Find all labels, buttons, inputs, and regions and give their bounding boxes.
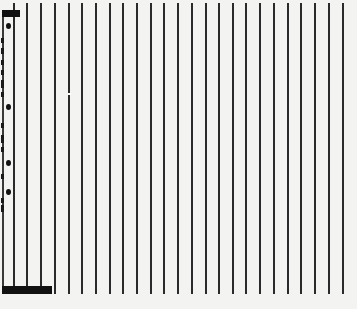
- vertical-line: [328, 3, 330, 294]
- vertical-line: [273, 3, 275, 294]
- vertical-line: [245, 3, 247, 294]
- vertical-line: [54, 3, 56, 294]
- dash-marker: [1, 123, 4, 128]
- vertical-line: [150, 3, 152, 294]
- dash-marker: [1, 80, 4, 88]
- dot-marker: [6, 104, 11, 110]
- vertical-line: [342, 3, 344, 294]
- white-speck: [68, 93, 71, 95]
- vertical-line: [191, 3, 193, 294]
- vertical-line: [26, 3, 28, 294]
- dash-marker: [1, 70, 4, 75]
- dash-marker: [1, 205, 4, 212]
- vertical-line: [218, 3, 220, 294]
- vertical-line: [136, 3, 138, 294]
- vertical-line: [259, 3, 261, 294]
- dot-marker: [6, 160, 11, 166]
- dash-marker: [1, 48, 4, 54]
- vertical-line: [109, 3, 111, 294]
- top-left-bar: [2, 10, 20, 17]
- dash-marker: [1, 92, 4, 97]
- vertical-line: [81, 3, 83, 294]
- dash-marker: [1, 60, 4, 65]
- vertical-line: [163, 3, 165, 294]
- vertical-line: [287, 3, 289, 294]
- vertical-line: [40, 3, 42, 294]
- vertical-line: [314, 3, 316, 294]
- dash-marker: [1, 135, 4, 143]
- vertical-line: [205, 3, 207, 294]
- dot-marker: [6, 189, 11, 195]
- striped-pattern-canvas: [0, 0, 357, 309]
- vertical-line: [232, 3, 234, 294]
- vertical-line: [13, 3, 15, 294]
- vertical-line: [300, 3, 302, 294]
- vertical-line: [95, 3, 97, 294]
- dash-marker: [1, 174, 4, 179]
- vertical-line: [68, 3, 70, 294]
- dash-marker: [1, 198, 4, 203]
- vertical-line: [177, 3, 179, 294]
- dot-marker: [6, 23, 11, 29]
- dash-marker: [1, 147, 4, 152]
- bottom-left-bar: [2, 286, 52, 294]
- dash-marker: [1, 38, 4, 43]
- vertical-line: [122, 3, 124, 294]
